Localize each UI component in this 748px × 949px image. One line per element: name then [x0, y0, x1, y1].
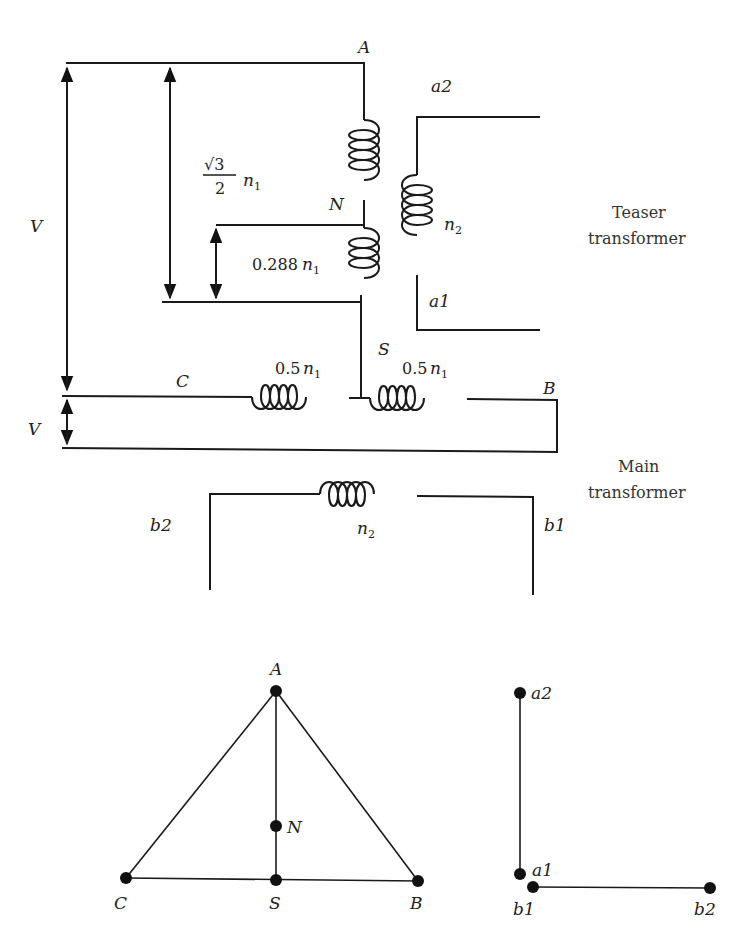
svg-text:2: 2 [368, 528, 375, 541]
main-right-half-coil [370, 386, 424, 410]
main-right-turns-label: 0.5 n 1 [402, 358, 448, 381]
svg-text:1: 1 [314, 368, 321, 381]
phasor-primary [120, 685, 424, 887]
node-label-C: C [176, 371, 189, 391]
main-transformer-caption-2: transformer [588, 483, 686, 502]
phasor-node-B [412, 875, 424, 887]
voltage-arrows [67, 68, 216, 444]
svg-text:0.288: 0.288 [252, 255, 298, 274]
svg-text:n: n [243, 170, 254, 190]
node-label-N: N [328, 194, 345, 214]
teaser-transformer-caption-2: transformer [588, 229, 686, 248]
scott-t-diagram: A a2 N a1 S C B b2 b1 V V √3 2 n 1 0.288… [0, 0, 748, 949]
phasor-label-a1: a1 [532, 860, 553, 880]
phasor-node-N [270, 820, 282, 832]
svg-text:1: 1 [254, 180, 261, 193]
svg-text:1: 1 [313, 264, 320, 277]
phasor-label-N: N [286, 817, 303, 837]
phasor-node-a1 [514, 868, 526, 880]
phasor-label-b1: b1 [513, 899, 535, 919]
teaser-transformer-caption-1: Teaser [612, 203, 666, 222]
phasor-node-a2 [514, 687, 526, 699]
phasor-node-b1 [527, 881, 539, 893]
teaser-secondary-coil [402, 175, 432, 235]
main-secondary-coil [320, 482, 374, 506]
main-transformer-caption-1: Main [618, 457, 659, 476]
phasor-label-S: S [269, 893, 281, 913]
svg-text:n: n [302, 254, 313, 274]
phasor-label-a2: a2 [531, 683, 552, 703]
node-label-b2: b2 [150, 515, 172, 535]
main-left-turns-label: 0.5 n 1 [275, 358, 321, 381]
phasor-node-S [270, 874, 282, 886]
phasor-label-A: A [268, 659, 282, 679]
voltage-label-small: V [28, 419, 42, 439]
phasor-label-b2: b2 [694, 899, 716, 919]
svg-text:0.5: 0.5 [275, 359, 300, 378]
node-label-B: B [542, 378, 556, 398]
svg-text:2: 2 [455, 224, 462, 237]
svg-text:n: n [357, 518, 368, 538]
svg-text:1: 1 [441, 368, 448, 381]
node-label-a1: a1 [429, 291, 450, 311]
node-label-a2: a2 [431, 76, 452, 96]
main-secondary-turns-label: n 2 [357, 518, 375, 541]
main-left-half-coil [252, 385, 306, 409]
teaser-lower-turns-label: 0.288 n 1 [252, 254, 320, 277]
svg-text:√3: √3 [204, 155, 224, 174]
teaser-primary-circuit [66, 63, 379, 398]
svg-text:n: n [444, 214, 455, 234]
svg-text:n: n [430, 358, 441, 378]
teaser-upper-coil [349, 120, 379, 180]
svg-text:2: 2 [215, 179, 225, 198]
teaser-secondary-circuit [402, 117, 540, 330]
main-primary-circuit [62, 385, 557, 452]
phasor-label-C: C [114, 893, 127, 913]
teaser-secondary-turns-label: n 2 [444, 214, 462, 237]
node-label-S: S [378, 339, 390, 359]
node-label-A: A [356, 37, 370, 57]
svg-text:0.5: 0.5 [402, 359, 427, 378]
node-label-b1: b1 [544, 515, 566, 535]
phasor-node-b2 [704, 882, 716, 894]
phasor-label-B: B [409, 893, 423, 913]
phasor-node-A [270, 685, 282, 697]
teaser-lower-coil [349, 228, 379, 278]
teaser-upper-turns-label: √3 2 n 1 [203, 155, 261, 198]
voltage-label-main: V [30, 216, 44, 236]
svg-text:n: n [303, 358, 314, 378]
phasor-node-C [120, 872, 132, 884]
